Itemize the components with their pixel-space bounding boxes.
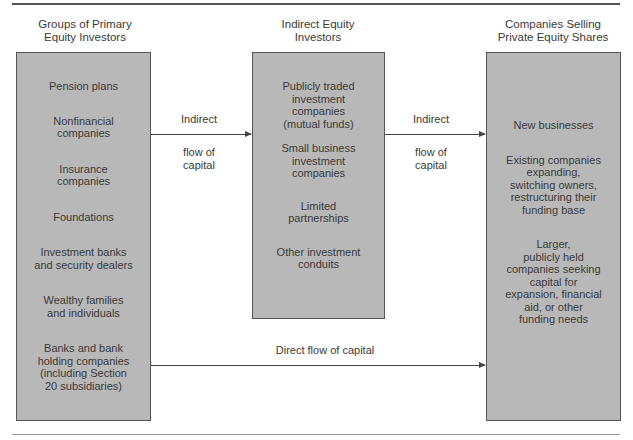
title-companies-selling: Companies Selling Private Equity Shares [473, 18, 633, 44]
item-line: investment [282, 93, 354, 106]
label-line: flow of [398, 146, 464, 159]
box-companies-selling: New businesses Existing companiesexpandi… [486, 52, 621, 421]
item-line: companies [57, 175, 110, 188]
item-pension-plans: Pension plans [49, 80, 118, 93]
item-line: Banks and bank [38, 342, 130, 355]
item-line: Existing companies [506, 154, 601, 167]
item-mutual-funds: Publicly tradedinvestmentcompanies(mutua… [282, 80, 354, 130]
item-line: Small business [282, 142, 356, 155]
item-banks-holding: Banks and bankholding companies(includin… [38, 342, 130, 392]
item-line: Pension plans [49, 80, 118, 93]
item-line: New businesses [513, 119, 593, 132]
item-nonfinancial: Nonfinancialcompanies [53, 115, 114, 140]
item-foundations: Foundations [53, 211, 114, 224]
item-line: companies [53, 127, 114, 140]
arrow-label-indirect-2: Indirect [398, 113, 464, 126]
item-line: expansion, financial [505, 288, 602, 301]
item-line: (mutual funds) [282, 118, 354, 131]
item-wealthy-families: Wealthy familiesand individuals [44, 294, 124, 319]
item-line: Larger, [505, 238, 602, 251]
item-line: switching owners, [506, 179, 601, 192]
title-line: Companies Selling [473, 18, 633, 31]
item-line: funding needs [505, 313, 602, 326]
item-line: companies [282, 105, 354, 118]
item-insurance: Insurancecompanies [57, 163, 110, 188]
title-line: Indirect Equity [243, 18, 393, 31]
item-line: companies [282, 167, 356, 180]
title-primary-investors: Groups of Primary Equity Investors [10, 18, 160, 44]
title-line: Investors [243, 31, 393, 44]
item-limited-partnerships: Limitedpartnerships [288, 200, 349, 225]
item-line: restructuring their [506, 191, 601, 204]
bottom-rule [12, 434, 620, 435]
item-line: (including Section [38, 367, 130, 380]
label-line: capital [398, 159, 464, 172]
item-larger-companies: Larger,publicly heldcompanies seekingcap… [505, 238, 602, 326]
title-line: Private Equity Shares [473, 31, 633, 44]
item-line: Foundations [53, 211, 114, 224]
item-line: Limited [288, 200, 349, 213]
arrow-direct-flow [151, 365, 485, 366]
item-line: Investment banks [34, 246, 132, 259]
item-small-business: Small businessinvestmentcompanies [282, 142, 356, 180]
item-line: partnerships [288, 212, 349, 225]
arrow-indirect-flow-2 [385, 134, 485, 135]
item-investment-banks: Investment banksand security dealers [34, 246, 132, 271]
arrow-label-flow-2: flow of capital [398, 146, 464, 171]
item-line: Insurance [57, 163, 110, 176]
item-line: publicly held [505, 251, 602, 264]
item-line: capital for [505, 276, 602, 289]
item-line: funding base [506, 204, 601, 217]
item-existing-companies: Existing companiesexpanding,switching ow… [506, 154, 601, 217]
arrow-label-direct: Direct flow of capital [250, 344, 400, 357]
item-other-conduits: Other investmentconduits [277, 246, 361, 271]
label-line: capital [166, 159, 232, 172]
title-line: Equity Investors [10, 31, 160, 44]
item-line: Publicly traded [282, 80, 354, 93]
item-line: conduits [277, 258, 361, 271]
top-rule [12, 3, 620, 5]
box-primary-investors: Pension plans Nonfinancialcompanies Insu… [16, 52, 151, 421]
title-indirect-investors: Indirect Equity Investors [243, 18, 393, 44]
item-line: 20 subsidiaries) [38, 380, 130, 393]
label-line: flow of [166, 146, 232, 159]
title-line: Groups of Primary [10, 18, 160, 31]
item-new-businesses: New businesses [513, 119, 593, 132]
item-line: and individuals [44, 307, 124, 320]
item-line: and security dealers [34, 259, 132, 272]
arrow-label-indirect-1: Indirect [166, 113, 232, 126]
item-line: companies seeking [505, 263, 602, 276]
item-line: Wealthy families [44, 294, 124, 307]
item-line: Other investment [277, 246, 361, 259]
box-indirect-investors: Publicly tradedinvestmentcompanies(mutua… [252, 52, 385, 319]
arrow-label-flow-1: flow of capital [166, 146, 232, 171]
item-line: aid, or other [505, 301, 602, 314]
item-line: Nonfinancial [53, 115, 114, 128]
arrow-indirect-flow-1 [151, 134, 251, 135]
item-line: holding companies [38, 355, 130, 368]
item-line: investment [282, 155, 356, 168]
item-line: expanding, [506, 166, 601, 179]
